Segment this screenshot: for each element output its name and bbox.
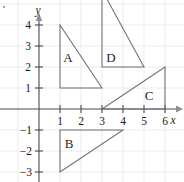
triangle-d-label: D [106, 50, 115, 65]
x-tick-label-1: 1 [57, 115, 63, 127]
shapes-group [60, 0, 165, 172]
x-tick-label-5: 5 [141, 115, 147, 127]
y-tick-label-4: 4 [25, 19, 31, 31]
x-tick-label-3: 3 [99, 115, 105, 127]
x-axis-label: x [169, 114, 176, 126]
x-axis-arrowhead [176, 106, 183, 113]
triangle-a-label: A [63, 50, 73, 65]
y-tick-label-2: 2 [25, 61, 31, 73]
x-tick-label-2: 2 [78, 115, 84, 127]
y-tick-label-minus-1: −1 [20, 124, 32, 136]
coordinate-plane-figure: 1 2 3 4 5 6 4 3 2 1 −1 −2 −3 x y A D C B [0, 0, 184, 182]
y-tick-label-minus-3: −3 [20, 166, 32, 178]
y-axis-label: y [34, 4, 41, 17]
scan-speck [3, 6, 5, 8]
x-tick-label-4: 4 [120, 115, 126, 127]
x-tick-label-6: 6 [162, 115, 168, 127]
triangle-c-label: C [145, 88, 154, 103]
x-tick-labels: 1 2 3 4 5 6 [57, 115, 168, 127]
triangle-b-label: B [65, 136, 74, 151]
y-tick-label-1: 1 [25, 82, 31, 94]
coordinate-plane-svg: 1 2 3 4 5 6 4 3 2 1 −1 −2 −3 x y A D C B [0, 0, 184, 182]
y-tick-label-minus-2: −2 [20, 145, 32, 157]
y-tick-label-3: 3 [25, 40, 31, 52]
y-tick-labels: 4 3 2 1 −1 −2 −3 [20, 19, 32, 178]
